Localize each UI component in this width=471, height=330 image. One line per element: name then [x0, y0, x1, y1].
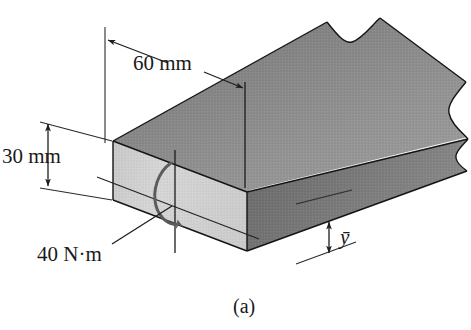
dimension-ybar-label: ȳ: [338, 225, 350, 249]
beam-diagram-svg: 60 mm 30 mm 40 N·m: [0, 0, 471, 330]
figure-caption: (a): [233, 295, 255, 318]
figure-container: 60 mm 30 mm 40 N·m: [0, 0, 471, 330]
dimension-30mm-label: 30 mm: [2, 144, 61, 168]
torque-label: 40 N·m: [37, 242, 102, 266]
dimension-60mm-label: 60 mm: [133, 51, 192, 75]
